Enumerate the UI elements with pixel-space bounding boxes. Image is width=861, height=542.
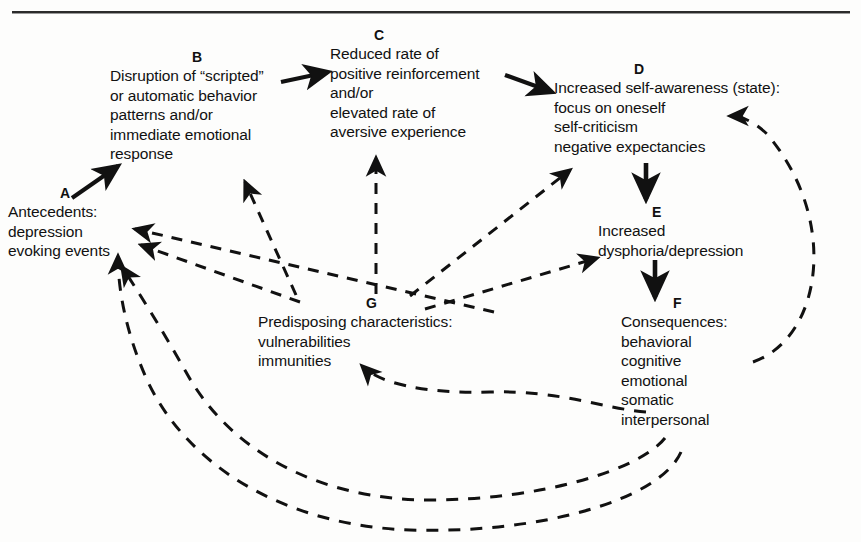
edge-g-to-d [410,170,570,296]
node-c[interactable]: C Reduced rate of positive reinforcement… [330,28,515,142]
node-e-text: Increased dysphoria/depression [598,221,788,260]
node-e[interactable]: E Increased dysphoria/depression [598,205,788,260]
node-a-text: Antecedents: depression evoking events [8,202,158,261]
node-f-items: behavioral cognitive emotional somatic i… [621,332,781,430]
node-c-text: Reduced rate of positive reinforcement a… [330,44,515,142]
node-a[interactable]: A Antecedents: depression evoking events [8,186,158,261]
figure-canvas: A Antecedents: depression evoking events… [0,0,861,542]
edge-f-to-g-curve [362,366,646,412]
node-e-label: E [598,205,788,220]
node-a-label: A [8,186,158,201]
node-g[interactable]: G Predisposing characteristics: vulnerab… [258,296,488,371]
node-g-label: G [258,296,488,311]
node-f-head: Consequences: [621,312,781,332]
node-d-label: D [554,62,804,77]
node-b-label: B [110,50,325,65]
node-g-text: Predisposing characteristics: vulnerabil… [258,312,488,371]
node-c-label: C [330,28,515,43]
node-b-text: Disruption of “scripted” or automatic be… [110,66,325,164]
node-f[interactable]: F Consequences: behavioral cognitive emo… [621,296,781,429]
node-f-label: F [621,296,781,311]
node-d[interactable]: D Increased self-awareness (state): focu… [554,62,804,156]
node-b[interactable]: B Disruption of “scripted” or automatic … [110,50,325,164]
edge-g-to-b [245,182,296,295]
top-horizontal-rule-shadow [12,13,850,14]
node-d-text: Increased self-awareness (state): focus … [554,78,804,156]
